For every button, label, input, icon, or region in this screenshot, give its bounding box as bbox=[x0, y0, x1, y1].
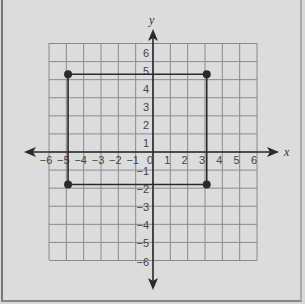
x-tick-label: −4 bbox=[74, 154, 87, 166]
y-tick-label: −5 bbox=[136, 237, 149, 249]
x-tick-label: −6 bbox=[40, 154, 53, 166]
y-tick-label: −1 bbox=[136, 165, 149, 177]
x-tick-label: 5 bbox=[234, 154, 240, 166]
vertex-point bbox=[203, 70, 211, 78]
x-tick-label: 4 bbox=[216, 154, 222, 166]
y-tick-label: −3 bbox=[136, 201, 149, 213]
y-tick-label: 6 bbox=[143, 47, 149, 59]
y-tick-label: 2 bbox=[143, 119, 149, 131]
vertex-point bbox=[203, 181, 211, 189]
y-tick-label: 3 bbox=[143, 101, 149, 113]
y-tick-label: −6 bbox=[136, 256, 149, 268]
y-tick-label: −4 bbox=[136, 219, 149, 231]
vertex-point bbox=[64, 70, 72, 78]
vertex-point bbox=[64, 181, 72, 189]
x-tick-label: −2 bbox=[109, 154, 122, 166]
x-tick-label: −3 bbox=[92, 154, 105, 166]
coordinate-plane: xy−6−5−4−3−2−10123456654321−1−2−3−4−5−6 bbox=[0, 0, 305, 304]
x-tick-label: 3 bbox=[199, 154, 205, 166]
x-tick-label: 2 bbox=[182, 154, 188, 166]
x-tick-label: 6 bbox=[251, 154, 257, 166]
x-axis-label: x bbox=[283, 145, 290, 159]
y-tick-label: 1 bbox=[143, 137, 149, 149]
y-axis-label: y bbox=[148, 13, 155, 27]
y-tick-label: 4 bbox=[143, 83, 149, 95]
x-tick-label: 1 bbox=[164, 154, 170, 166]
